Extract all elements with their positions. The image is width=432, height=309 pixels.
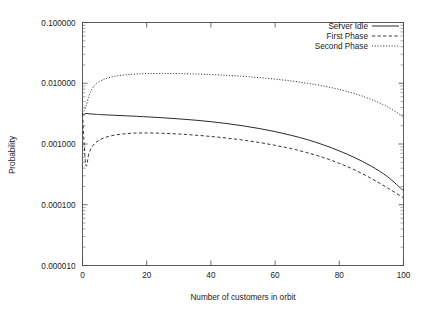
x-tick-label: 80 [335, 271, 345, 280]
legend-label: First Phase [327, 32, 369, 41]
x-tick-label: 40 [206, 271, 216, 280]
x-tick-label: 20 [142, 271, 152, 280]
x-axis-tick-labels: 020406080100 [80, 271, 411, 280]
legend-label: Second Phase [315, 42, 369, 51]
x-axis-title: Number of customers in orbit [190, 293, 296, 302]
y-tick-label: 0.000010 [41, 262, 76, 271]
y-axis-title: Probability [8, 135, 17, 174]
chart-plot: 0.1000000.0100000.0010000.0001000.000010… [0, 0, 432, 309]
x-axis-major-ticks [83, 23, 404, 266]
plot-frame [83, 23, 404, 266]
y-tick-label: 0.001000 [41, 140, 76, 149]
legend-label: Server Idle [328, 22, 368, 31]
x-tick-label: 100 [397, 271, 411, 280]
y-axis-minor-ticks [83, 25, 404, 247]
y-tick-label: 0.100000 [41, 19, 76, 28]
chart-series-group [83, 73, 404, 197]
chart-container: 0.1000000.0100000.0010000.0001000.000010… [0, 0, 432, 309]
x-tick-label: 60 [271, 271, 281, 280]
series-line [83, 73, 404, 116]
y-tick-label: 0.000100 [41, 201, 76, 210]
y-axis-major-ticks [83, 23, 404, 266]
series-line [83, 114, 404, 198]
series-line [83, 113, 404, 190]
y-tick-label: 0.010000 [41, 79, 76, 88]
y-axis-tick-labels: 0.1000000.0100000.0010000.0001000.000010 [41, 19, 76, 271]
x-tick-label: 0 [80, 271, 85, 280]
